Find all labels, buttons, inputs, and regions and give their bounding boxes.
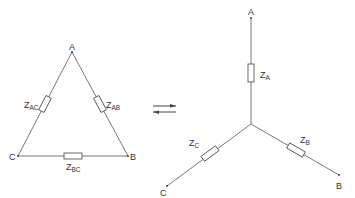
resistor-za-icon: [248, 64, 254, 82]
star-node-b: [338, 174, 340, 176]
delta-star-diagram: A C B ZAC ZAB ZBC A C B ZA ZC ZB: [0, 0, 355, 198]
star-label-za: ZA: [260, 70, 271, 81]
delta-label-a: A: [69, 42, 75, 52]
delta-label-zbc: ZBC: [66, 162, 81, 173]
star-label-zb: ZB: [300, 135, 310, 146]
delta-node-b: [127, 155, 129, 157]
resistor-zab-icon: [94, 96, 107, 113]
delta-node-c: [17, 155, 19, 157]
star-label-a: A: [248, 7, 254, 17]
delta-label-zac: ZAC: [24, 100, 39, 111]
resistor-zbc-icon: [64, 153, 82, 159]
star-label-b: B: [336, 181, 342, 191]
star-node-c: [166, 185, 168, 187]
equilibrium-arrows-icon: [153, 104, 176, 114]
star-node-a: [250, 17, 252, 19]
delta-label-b: B: [130, 152, 136, 162]
resistor-zac-icon: [39, 96, 52, 113]
delta-network: A C B ZAC ZAB ZBC: [9, 42, 136, 173]
resistor-zc-icon: [201, 146, 219, 162]
star-label-zc: ZC: [189, 138, 200, 149]
delta-label-zab: ZAB: [106, 100, 120, 111]
star-label-c: C: [160, 188, 167, 198]
star-network: A C B ZA ZC ZB: [160, 7, 342, 198]
delta-label-c: C: [9, 152, 16, 162]
resistor-zb-icon: [287, 143, 306, 157]
